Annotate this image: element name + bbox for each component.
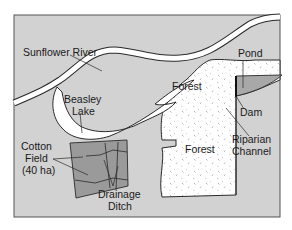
ditch-label-1: Drainage bbox=[98, 188, 141, 200]
pond-label: Pond bbox=[238, 47, 263, 59]
riparian-label-1: Riparian bbox=[232, 133, 271, 145]
cotton-label-2: Field bbox=[25, 152, 48, 164]
forest-south-label: Forest bbox=[185, 143, 215, 155]
ditch-label-2: Ditch bbox=[108, 200, 132, 212]
lake-label-1: Beasley bbox=[64, 93, 102, 105]
study-area-map: Sunflower River Pond Forest Dam Beasley … bbox=[0, 0, 292, 230]
river-label: Sunflower River bbox=[23, 46, 98, 58]
cotton-label-1: Cotton bbox=[21, 140, 52, 152]
cotton-label-3: (40 ha) bbox=[22, 164, 55, 176]
forest-north-label: Forest bbox=[172, 80, 202, 92]
dam-label: Dam bbox=[240, 106, 262, 118]
riparian-label-2: Channel bbox=[232, 145, 271, 157]
lake-label-2: Lake bbox=[72, 105, 95, 117]
